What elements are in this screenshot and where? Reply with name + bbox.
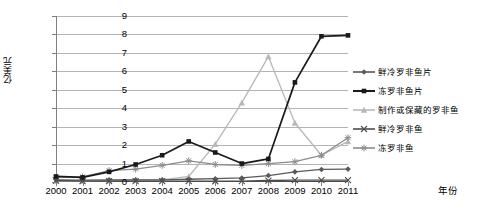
series-line — [56, 35, 348, 177]
y-tick-mark — [52, 16, 56, 17]
y-tick-label: 7 — [109, 48, 127, 58]
y-tick-label: 6 — [109, 66, 127, 76]
data-point-square — [293, 80, 298, 85]
data-point-square — [213, 150, 218, 155]
data-point-square — [80, 175, 85, 180]
data-point-diamond — [361, 69, 367, 75]
data-point-asterisk — [185, 157, 192, 164]
data-point-square — [133, 162, 138, 167]
line-chart: 亿美元 0123456789 2000200120022003200420052… — [0, 0, 479, 219]
y-tick-mark — [52, 145, 56, 146]
legend-label: 冻罗非鱼 — [376, 143, 414, 153]
chart-legend: 鲜冷罗非鱼片冻罗非鱼片制作或保藏的罗非鱼鲜冷罗非鱼冻罗非鱼 — [352, 62, 479, 157]
y-tick-label: 2 — [109, 140, 127, 150]
series-1 — [54, 33, 351, 180]
y-tick-mark — [52, 71, 56, 72]
data-point-asterisk — [361, 144, 368, 151]
data-point-asterisk — [212, 161, 219, 168]
y-tick-mark — [52, 34, 56, 35]
plot-area — [56, 16, 348, 182]
data-point-square — [266, 157, 271, 162]
data-point-square — [319, 34, 324, 39]
y-axis-title: 亿美元 — [2, 36, 16, 106]
legend-marker-triangle-icon — [352, 104, 376, 116]
y-tick-label: 8 — [109, 29, 127, 39]
legend-label: 鲜冷罗非鱼 — [376, 124, 423, 134]
data-point-triangle — [265, 53, 271, 59]
data-point-square — [346, 33, 351, 38]
data-point-triangle — [292, 120, 298, 126]
y-tick-mark — [52, 90, 56, 91]
y-tick-label: 9 — [109, 11, 127, 21]
data-point-asterisk — [159, 162, 166, 169]
legend-label: 制作或保藏的罗非鱼 — [376, 105, 459, 115]
legend-label: 鲜冷罗非鱼片 — [376, 67, 432, 77]
legend-item-3[interactable]: 鲜冷罗非鱼 — [352, 119, 479, 138]
data-point-asterisk — [345, 134, 352, 141]
data-point-asterisk — [318, 152, 325, 159]
x-tick-label: 2011 — [331, 186, 365, 196]
y-tick-mark — [52, 53, 56, 54]
data-point-diamond — [345, 166, 351, 172]
data-point-square — [54, 174, 59, 179]
legend-marker-asterisk-icon — [352, 142, 376, 154]
legend-marker-square-icon — [352, 85, 376, 97]
data-point-triangle — [239, 99, 245, 105]
legend-item-0[interactable]: 鲜冷罗非鱼片 — [352, 62, 479, 81]
data-point-diamond — [292, 169, 298, 175]
legend-label: 冻罗非鱼片 — [376, 86, 423, 96]
y-tick-mark — [52, 164, 56, 165]
y-tick-mark — [52, 108, 56, 109]
y-tick-mark — [52, 127, 56, 128]
legend-item-1[interactable]: 冻罗非鱼片 — [352, 81, 479, 100]
legend-marker-diamond-icon — [352, 66, 376, 78]
legend-marker-x-icon — [352, 123, 376, 135]
series-layer — [56, 16, 348, 182]
y-tick-label: 3 — [109, 122, 127, 132]
data-point-square — [107, 170, 112, 175]
data-point-square — [186, 139, 191, 144]
y-tick-label: 4 — [109, 103, 127, 113]
series-3 — [53, 177, 351, 184]
data-point-diamond — [239, 175, 245, 181]
series-2 — [53, 53, 351, 183]
data-point-square — [160, 153, 165, 158]
data-point-diamond — [319, 167, 325, 173]
y-tick-label: 5 — [109, 85, 127, 95]
x-axis-title: 年份 — [438, 186, 458, 196]
legend-item-4[interactable]: 冻罗非鱼 — [352, 138, 479, 157]
y-tick-label: 1 — [109, 159, 127, 169]
data-point-square — [240, 161, 245, 166]
legend-item-2[interactable]: 制作或保藏的罗非鱼 — [352, 100, 479, 119]
data-point-square — [362, 88, 367, 93]
data-point-asterisk — [292, 158, 299, 165]
data-point-diamond — [266, 173, 272, 179]
